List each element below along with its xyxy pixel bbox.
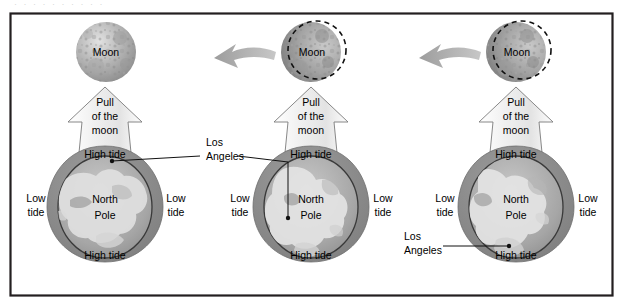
panel-2-low-tide-left-line2: tide — [232, 206, 249, 218]
panel-1-low-tide-left-line2: tide — [28, 206, 45, 218]
panel-2-low-tide-left-line1: Low — [230, 192, 250, 204]
panel-2-pull-line1: Pull — [302, 96, 320, 108]
panel-3-pull-line3: moon — [503, 124, 529, 136]
panel-1-pull-line1: Pull — [96, 96, 114, 108]
panel-1-high-tide-top: High tide — [84, 148, 126, 160]
panel-3-high-tide-bottom: High tide — [495, 249, 537, 261]
panel-2-moon-label: Moon — [299, 46, 325, 58]
panel-2-pull-line3: moon — [298, 124, 324, 136]
panel-2-low-tide-right-line2: tide — [375, 206, 392, 218]
panel-1-low-tide-left-line1: Low — [26, 192, 46, 204]
panel-2-pull-line2: of the — [298, 110, 324, 122]
diagram-canvas: High tide High tide Low tide Low tide No… — [0, 0, 623, 308]
panel-1-pull-line3: moon — [92, 124, 118, 136]
los-angeles-label-3-line1: Los — [404, 230, 421, 242]
panel-3-low-tide-left-line2: tide — [437, 206, 454, 218]
panel-2-north-pole-line2: Pole — [300, 209, 321, 221]
panel-3-low-tide-right-line2: tide — [580, 206, 597, 218]
panel-1-high-tide-bottom: High tide — [84, 249, 126, 261]
panel-3-low-tide-right-line1: Low — [578, 192, 598, 204]
panel-2-high-tide-bottom: High tide — [290, 249, 332, 261]
panel-3-north-pole-line1: North — [503, 193, 529, 205]
panel-2-low-tide-right-line1: Low — [373, 192, 393, 204]
panel-1-low-tide-right-line2: tide — [168, 206, 185, 218]
panel-2-north-pole-line1: North — [298, 193, 324, 205]
panel-3-low-tide-left-line1: Low — [435, 192, 455, 204]
panel-1-moon-label: Moon — [93, 46, 119, 58]
faint-top-text: · · · · · · · · · · — [14, 0, 104, 9]
los-angeles-label-1-line1: Los — [206, 136, 223, 148]
panel-3-pull-line1: Pull — [507, 96, 525, 108]
panel-1-pull-line2: of the — [92, 110, 118, 122]
los-angeles-label-1-line2: Angeles — [206, 150, 244, 162]
tides-diagram-figure: · · · · · · · · · · — [0, 0, 623, 308]
panel-3-north-pole-line2: Pole — [505, 209, 526, 221]
panel-2-high-tide-top: High tide — [290, 148, 332, 160]
panel-1-north-pole-line2: Pole — [94, 209, 115, 221]
panel-3-pull-line2: of the — [503, 110, 529, 122]
panel-1-north-pole-line1: North — [92, 193, 118, 205]
panel-3-moon-label: Moon — [504, 46, 530, 58]
panel-3-high-tide-top: High tide — [495, 148, 537, 160]
panel-1-low-tide-right-line1: Low — [166, 192, 186, 204]
los-angeles-label-3-line2: Angeles — [404, 244, 442, 256]
